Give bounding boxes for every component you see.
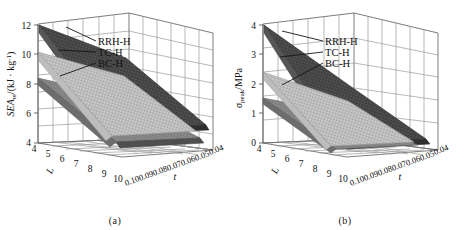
y-title-b-unit: /MPa — [233, 68, 244, 90]
legend-b-bc-h: BC-H — [325, 58, 351, 69]
x-tick-a-0: 0.04 — [207, 142, 225, 157]
y-tick-a-2: 8 — [26, 80, 31, 90]
legend-b-tc-h: TC-H — [325, 47, 350, 58]
legend-b-rrh-h: RRH-H — [325, 36, 358, 47]
y-tick-b-0: 0 — [251, 138, 256, 148]
y-title-b-sub: peak — [238, 89, 246, 103]
panel-a: 4 6 8 10 12 SEAm/(kJ · kg-1) 4 5 6 7 8 9… — [0, 0, 230, 230]
panel-a-plot: 4 6 8 10 12 SEAm/(kJ · kg-1) 4 5 6 7 8 9… — [0, 0, 230, 230]
z-tick-a-6: 10 — [113, 174, 123, 184]
y-axis-a — [34, 24, 38, 143]
y-tick-b-4: 4 — [251, 21, 256, 31]
y-tick-a-4: 12 — [22, 21, 32, 31]
z-tick-a-5: 9 — [102, 169, 107, 179]
caption-b: (b) — [230, 215, 460, 226]
figure-container: 4 6 8 10 12 SEAm/(kJ · kg-1) 4 5 6 7 8 9… — [0, 0, 460, 230]
z-tick-b-6: 10 — [338, 174, 348, 184]
z-axis-title-b: L — [268, 165, 281, 176]
y-title-a-main: SEA — [5, 98, 16, 116]
y-title-a-unit: /(kJ · kg — [5, 61, 17, 94]
z-tick-b-3: 7 — [299, 159, 304, 169]
z-axis-name-b: L — [268, 165, 281, 176]
z-tick-a-1: 5 — [46, 149, 51, 159]
legend-a-rrh-h: RRH-H — [98, 36, 131, 47]
panel-b-plot: 0 1 2 3 4 σpeak/MPa 4 5 6 7 8 9 10 L 0. — [230, 0, 460, 230]
z-tick-a-4: 8 — [88, 164, 93, 174]
caption-a: (a) — [0, 215, 230, 226]
svg-text:SEAm/(kJ · kg-1): SEAm/(kJ · kg-1) — [5, 52, 19, 117]
x-axis-name-b: t — [399, 171, 402, 182]
z-tick-a-3: 7 — [74, 159, 79, 169]
y-tick-b-3: 3 — [251, 50, 256, 60]
x-axis-name-a: t — [174, 171, 177, 182]
svg-text:σpeak/MPa: σpeak/MPa — [233, 68, 246, 108]
panel-b: 0 1 2 3 4 σpeak/MPa 4 5 6 7 8 9 10 L 0. — [230, 0, 460, 230]
y-tick-b-2: 2 — [251, 80, 256, 90]
y-axis-title-a: SEAm/(kJ · kg-1) — [5, 52, 19, 117]
z-tick-a-0: 4 — [32, 144, 37, 154]
y-tick-a-0: 4 — [26, 138, 31, 148]
y-title-a-close: ) — [5, 52, 17, 55]
x-tick-b-0: 0.04 — [432, 142, 450, 157]
z-axis-title-a: L — [43, 165, 56, 176]
y-axis-title-b: σpeak/MPa — [233, 68, 246, 108]
legend-a-bc-h: BC-H — [98, 58, 124, 69]
z-tick-b-4: 8 — [313, 164, 318, 174]
z-tick-b-0: 4 — [257, 144, 262, 154]
y-tick-b-1: 1 — [251, 109, 256, 119]
z-tick-a-2: 6 — [60, 154, 65, 164]
y-axis-b — [259, 24, 263, 143]
z-tick-b-1: 5 — [271, 149, 276, 159]
z-tick-b-5: 9 — [327, 169, 332, 179]
y-tick-a-3: 10 — [22, 50, 32, 60]
y-tick-a-1: 6 — [26, 109, 31, 119]
z-tick-b-2: 6 — [285, 154, 290, 164]
z-axis-name-a: L — [43, 165, 56, 176]
legend-a-tc-h: TC-H — [98, 47, 123, 58]
